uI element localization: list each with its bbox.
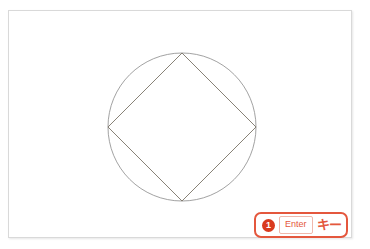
enter-key-chip[interactable]: Enter — [279, 216, 313, 234]
slide-frame: 1 Enter キー — [8, 10, 352, 238]
step-number-badge-icon: 1 — [262, 219, 275, 232]
geometry-figure — [9, 11, 353, 239]
inscribed-diamond-shape — [108, 53, 256, 201]
circumscribed-circle-icon — [108, 53, 256, 201]
key-suffix-label: キー — [317, 218, 342, 232]
enter-key-callout[interactable]: 1 Enter キー — [254, 212, 348, 238]
